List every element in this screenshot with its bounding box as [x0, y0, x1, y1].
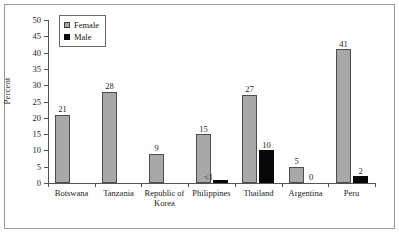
y-tick-label: 15 [33, 130, 42, 139]
bar-female: 27 [242, 95, 257, 183]
bar-female: 41 [336, 49, 351, 183]
bar-male: 2 [353, 176, 368, 183]
bar-value-label: 10 [262, 141, 271, 150]
y-tick-label: 45 [33, 32, 42, 41]
bar-male: 10 [259, 150, 274, 183]
x-tick-mark [188, 184, 189, 187]
x-tick-mark [328, 184, 329, 187]
bar-value-label: 28 [105, 82, 114, 91]
x-tick-mark [141, 184, 142, 187]
y-tick-label: 20 [33, 114, 42, 123]
y-tick-mark [44, 167, 48, 168]
bar-male: <1 [213, 180, 228, 183]
gray-swatch-icon [64, 22, 70, 28]
bar-female: 21 [55, 115, 70, 183]
y-tick-label: 10 [33, 146, 42, 155]
y-tick-mark [44, 150, 48, 151]
bar-value-label: 21 [58, 105, 67, 114]
y-tick-label: 40 [33, 48, 42, 57]
bar-female: 9 [149, 154, 164, 183]
y-tick-mark [44, 102, 48, 103]
bar-female: 5 [289, 167, 304, 183]
bar-value-label: 41 [339, 40, 348, 49]
y-tick-label: 0 [37, 179, 41, 188]
x-tick-mark [95, 184, 96, 187]
legend-item-male: Male [64, 31, 99, 43]
x-tick-mark [48, 184, 49, 187]
y-tick-mark [44, 53, 48, 54]
legend-label-female: Female [74, 21, 99, 30]
x-tick-mark [282, 184, 283, 187]
y-tick-mark [44, 69, 48, 70]
legend-item-female: Female [64, 19, 99, 31]
y-tick-label: 5 [37, 162, 41, 171]
bar-value-label: 9 [154, 144, 158, 153]
y-tick-mark [44, 134, 48, 135]
y-tick-mark [44, 118, 48, 119]
y-axis-title: Percent [2, 78, 12, 105]
x-tick-mark [375, 184, 376, 187]
bar-value-label: <1 [204, 173, 213, 182]
chart-figure: Percent 50454035302520151050 Female Male… [0, 0, 399, 233]
y-tick-mark [44, 36, 48, 37]
y-tick-label: 50 [33, 16, 42, 25]
bar-female: 28 [102, 92, 117, 183]
y-tick-label: 25 [33, 97, 42, 106]
y-tick-mark [44, 85, 48, 86]
y-tick-mark [44, 20, 48, 21]
bar-value-label: 27 [245, 85, 254, 94]
y-tick-label: 30 [33, 81, 42, 90]
legend-label-male: Male [74, 33, 91, 42]
x-axis-line [48, 183, 376, 184]
bar-value-label: 15 [199, 125, 208, 134]
chart-legend: Female Male [59, 15, 106, 47]
black-swatch-icon [64, 34, 70, 40]
x-tick-mark [235, 184, 236, 187]
bar-value-label: 5 [294, 157, 298, 166]
y-tick-label: 35 [33, 65, 42, 74]
x-axis-label: Peru [322, 188, 381, 198]
bar-value-label: 2 [358, 167, 362, 176]
y-axis-line [48, 20, 49, 184]
bar-value-label: 0 [309, 173, 313, 182]
